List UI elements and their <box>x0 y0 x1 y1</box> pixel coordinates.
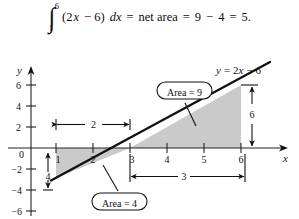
function-label-minus6: − 6 <box>247 64 262 76</box>
x-tick-label-3: 3 <box>130 154 135 165</box>
x-tick-label-1: 1 <box>56 154 61 165</box>
x-tick-label-2: 2 <box>91 154 96 165</box>
y-tick-label-6: 6 <box>16 80 21 91</box>
callout-label-area-4: Area = 4 <box>102 198 137 209</box>
callout-leader-4 <box>103 165 118 191</box>
function-label-eq: = <box>224 64 230 76</box>
function-label: y=2x− 6 <box>215 64 261 76</box>
x-axis-label: x <box>282 152 288 164</box>
y-tick-label-2: 2 <box>16 122 21 133</box>
function-label-y: y <box>215 64 221 76</box>
callout-label-area-9: Area = 9 <box>167 87 202 98</box>
y-tick-label-neg2: −2 <box>11 164 22 175</box>
y-tick-label-neg6: −6 <box>11 206 22 217</box>
y-tick-label-neg4: −4 <box>11 185 22 196</box>
dim-label-4: 4 <box>46 171 51 182</box>
dim-label-3: 3 <box>182 171 187 182</box>
dim-label-6: 6 <box>250 109 255 120</box>
graph-svg: y x 6 4 2 0 −2 −4 −6 1 2 3 4 5 6 2 4 3 6… <box>0 0 299 219</box>
function-label-x: x <box>238 64 244 76</box>
y-tick-label-4: 4 <box>16 101 21 112</box>
y-tick-label-0: 0 <box>19 149 24 160</box>
y-axis-label: y <box>16 64 22 76</box>
x-tick-label-5: 5 <box>202 154 207 165</box>
dim-label-2: 2 <box>91 119 96 130</box>
x-tick-label-4: 4 <box>165 154 170 165</box>
figure-container: ∫ 6 1 (2x− 6) dx = net area = 9 − 4 = 5. <box>0 0 299 219</box>
x-tick-label-6: 6 <box>239 154 244 165</box>
dim-width-3 <box>130 154 245 182</box>
